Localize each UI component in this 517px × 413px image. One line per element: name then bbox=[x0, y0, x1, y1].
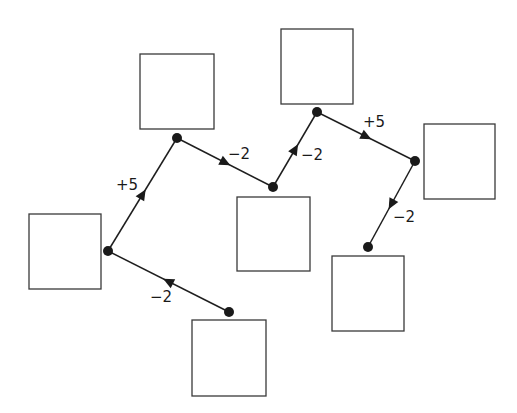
arrowhead-icon bbox=[161, 274, 175, 288]
node-dot-icon bbox=[410, 156, 420, 166]
edge-label: −2 bbox=[228, 145, 250, 163]
answer-box-f[interactable] bbox=[332, 256, 404, 331]
node-dot-icon bbox=[363, 242, 373, 252]
answer-box-b[interactable] bbox=[140, 54, 214, 129]
node-dot-icon bbox=[224, 307, 234, 317]
node-dot-icon bbox=[312, 107, 322, 117]
node-dot-icon bbox=[268, 182, 278, 192]
answer-box-a[interactable] bbox=[29, 214, 101, 289]
node-dot-icon bbox=[172, 133, 182, 143]
answer-box-c[interactable] bbox=[237, 197, 310, 271]
answer-box-d[interactable] bbox=[281, 29, 353, 104]
node-dot-icon bbox=[103, 246, 113, 256]
edge-label: −2 bbox=[150, 288, 172, 306]
edge-label: −2 bbox=[393, 208, 415, 226]
answer-box-e[interactable] bbox=[424, 124, 495, 199]
edge-label: +5 bbox=[116, 176, 138, 194]
edge-label: +5 bbox=[363, 113, 385, 131]
answer-box-g[interactable] bbox=[192, 320, 266, 396]
path-diagram: −2+5−2−2+5−2 bbox=[0, 0, 517, 413]
edge-label: −2 bbox=[301, 146, 323, 164]
arrowhead-icon bbox=[359, 130, 373, 144]
answer-boxes bbox=[29, 29, 495, 396]
